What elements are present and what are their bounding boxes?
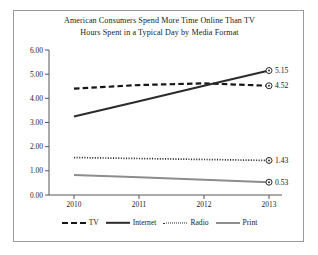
legend-swatch-print-icon: [216, 219, 240, 227]
chart-legend: TV Internet Radio Print: [14, 218, 305, 228]
data-label-radio: 1.43: [275, 156, 288, 165]
legend-label-print: Print: [243, 218, 258, 228]
y-tick-label: 5.00: [30, 70, 43, 79]
chart-plot-area: 6.00 5.00 4.00 3.00 2.00 1.00 0.00 2010 …: [14, 11, 305, 243]
x-tick-label: 2013: [262, 200, 277, 209]
y-tick-label: 6.00: [30, 46, 43, 55]
y-axis-ticks: [45, 50, 49, 195]
series-line-tv: [74, 83, 269, 88]
x-axis-ticks: [74, 195, 269, 199]
legend-swatch-tv-icon: [62, 219, 86, 227]
data-label-print: 0.53: [275, 178, 288, 187]
series-endpoint-radio: [266, 157, 272, 163]
y-tick-label: 2.00: [30, 142, 43, 151]
legend-label-internet: Internet: [133, 218, 157, 228]
legend-item-radio[interactable]: Radio: [163, 218, 208, 228]
series-endpoint-internet: [266, 68, 272, 74]
series-endpoint-print: [266, 179, 272, 185]
legend-item-internet[interactable]: Internet: [106, 218, 157, 228]
series-line-radio: [74, 158, 269, 161]
legend-label-tv: TV: [89, 218, 99, 228]
series-endpoint-tv: [266, 83, 272, 89]
legend-swatch-internet-icon: [106, 219, 130, 227]
series-line-internet: [74, 71, 269, 117]
series-line-print: [74, 175, 269, 182]
y-tick-label: 4.00: [30, 94, 43, 103]
y-tick-label: 0.00: [30, 191, 43, 200]
legend-item-tv[interactable]: TV: [62, 218, 99, 228]
x-tick-label: 2012: [197, 200, 212, 209]
x-tick-label: 2010: [67, 200, 82, 209]
legend-label-radio: Radio: [190, 218, 208, 228]
y-tick-label: 3.00: [30, 118, 43, 127]
legend-item-print[interactable]: Print: [216, 218, 258, 228]
data-label-tv: 4.52: [275, 81, 288, 90]
legend-swatch-radio-icon: [163, 219, 187, 227]
data-label-internet: 5.15: [275, 66, 288, 75]
x-tick-label: 2011: [132, 200, 147, 209]
chart-container: American Consumers Spend More Time Onlin…: [13, 10, 304, 242]
y-tick-label: 1.00: [30, 166, 43, 175]
